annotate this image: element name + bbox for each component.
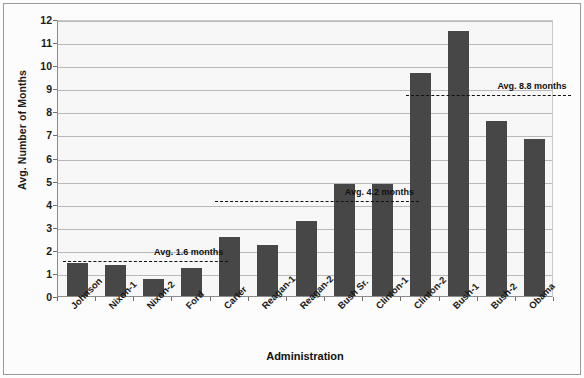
x-tick-mark [439,297,440,301]
x-tick-mark [210,297,211,301]
x-tick-mark [171,297,172,301]
y-tick-label: 6 [26,154,52,165]
y-tick-label: 5 [26,177,52,188]
gridline [58,21,552,22]
y-tick-label: 11 [26,38,52,49]
average-line [63,261,228,262]
chart-figure: Avg. Number of Months 1211109876543210 A… [0,0,584,378]
y-tick-label: 8 [26,107,52,118]
y-tick-label: 3 [26,223,52,234]
average-label: Avg. 4.2 months [345,188,414,197]
y-tick-label: 1 [26,269,52,280]
average-line [215,201,419,202]
x-tick-mark [400,297,401,301]
x-tick-mark [477,297,478,301]
gridline [58,160,552,161]
gridline [58,183,552,184]
x-tick-mark [362,297,363,301]
bar [486,121,507,296]
x-tick-mark [57,297,58,301]
y-tick-label: 12 [26,15,52,26]
x-tick-mark [95,297,96,301]
average-line [406,95,571,96]
bar [296,221,317,296]
gridline [58,90,552,91]
average-label: Avg. 8.8 months [497,82,566,91]
average-label: Avg. 1.6 months [154,248,223,257]
y-tick-label: 4 [26,200,52,211]
bar [448,31,469,296]
x-tick-mark [133,297,134,301]
gridline [58,67,552,68]
bar [410,73,431,296]
y-tick-label: 2 [26,246,52,257]
gridline [58,136,552,137]
x-tick-mark [248,297,249,301]
x-tick-mark [553,297,554,301]
x-tick-mark [286,297,287,301]
bar [524,139,545,296]
gridline [58,206,552,207]
x-axis-title: Administration [57,350,553,362]
x-tick-mark [324,297,325,301]
y-tick-label: 0 [26,292,52,303]
gridline [58,113,552,114]
y-tick-label: 9 [26,84,52,95]
y-tick-label: 7 [26,130,52,141]
y-tick-label: 10 [26,61,52,72]
plot-area: Avg. 1.6 monthsAvg. 4.2 monthsAvg. 8.8 m… [57,20,553,297]
gridline [58,44,552,45]
x-tick-mark [515,297,516,301]
